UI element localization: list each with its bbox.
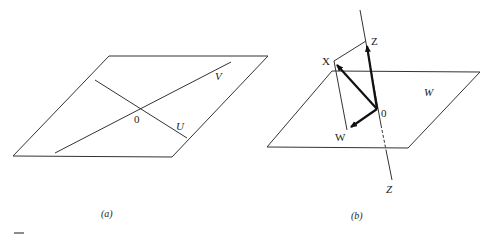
line-v-label: V bbox=[215, 70, 223, 82]
vector-w bbox=[351, 109, 377, 127]
z-axis-dashed bbox=[381, 125, 386, 150]
origin-label-b: 0 bbox=[381, 107, 387, 119]
caption-b: (b) bbox=[351, 210, 363, 222]
x-to-z-line bbox=[334, 41, 366, 61]
plane-w-label: W bbox=[424, 86, 434, 98]
point-z-label: Z bbox=[371, 35, 378, 47]
origin-label-a: 0 bbox=[134, 113, 140, 125]
line-v bbox=[55, 62, 231, 153]
point-w-label: W bbox=[335, 131, 346, 143]
figure-a: 0 V U (a) bbox=[13, 56, 268, 220]
plane-a bbox=[13, 56, 268, 157]
z-axis-lower bbox=[386, 150, 392, 180]
axis-z-label: Z bbox=[386, 183, 393, 195]
figure-b: Z X 0 W W Z (b) bbox=[267, 10, 480, 222]
line-u-label: U bbox=[176, 120, 185, 132]
caption-a: (a) bbox=[101, 208, 113, 220]
point-x-label: X bbox=[322, 55, 330, 67]
line-u bbox=[95, 80, 187, 138]
figure-canvas: 0 V U (a) Z X 0 W W Z (b) bbox=[0, 0, 491, 234]
